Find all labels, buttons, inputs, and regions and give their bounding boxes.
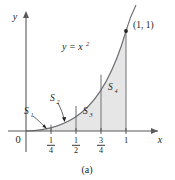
- x-tick-label-three-quarter-denominator: 4: [99, 146, 103, 155]
- y-axis-label: y: [12, 11, 18, 22]
- x-tick-label-half: 1 2: [72, 136, 80, 155]
- region-label-s3-base: S: [83, 106, 88, 116]
- x-tick-label-quarter-numerator: 1: [49, 136, 53, 145]
- curve-equation-base: y = x: [61, 41, 83, 52]
- x-tick-label-half-denominator: 2: [74, 146, 78, 155]
- region-label-s3-subscript: 3: [89, 111, 93, 118]
- parabola-area-figure: y x 0 (1, 1) y = x 2 S 1 S 2 S 3 S 4: [0, 0, 175, 180]
- figure-container: y x 0 (1, 1) y = x 2 S 1 S 2 S 3 S 4: [0, 0, 175, 180]
- x-axis-label: x: [157, 134, 163, 145]
- origin-label: 0: [15, 134, 20, 145]
- region-label-s1: S 1: [24, 106, 34, 118]
- region-label-s2: S 2: [50, 93, 60, 105]
- x-tick-label-quarter: 1 4: [47, 136, 55, 155]
- x-tick-label-quarter-denominator: 4: [49, 146, 53, 155]
- point-one-one-label: (1, 1): [133, 20, 154, 31]
- curve-equation-exponent: 2: [86, 40, 90, 47]
- x-tick-label-three-quarter-numerator: 3: [99, 136, 103, 145]
- region-label-s4-subscript: 4: [115, 87, 118, 94]
- region-label-s1-base: S: [24, 106, 29, 116]
- curve-equation-label: y = x 2: [61, 40, 90, 53]
- leader-arrow-s1: [33, 116, 47, 129]
- y-axis-arrowhead: [23, 11, 29, 18]
- region-label-s4-base: S: [108, 82, 113, 92]
- x-tick-label-half-numerator: 1: [74, 136, 78, 145]
- leader-arrow-s2: [58, 103, 66, 122]
- x-tick-label-three-quarter: 3 4: [97, 136, 105, 155]
- point-one-one-marker: [124, 29, 128, 33]
- region-label-s2-base: S: [50, 93, 55, 103]
- x-tick-label-one: 1: [124, 135, 128, 145]
- figure-caption: (a): [81, 164, 92, 176]
